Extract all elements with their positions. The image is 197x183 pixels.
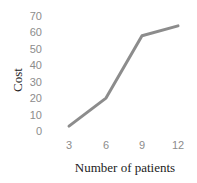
x-tick-label: 9 (139, 139, 145, 151)
x-tick-label: 6 (103, 139, 109, 151)
y-tick-label: 60 (30, 26, 42, 38)
y-tick-label: 20 (30, 92, 42, 104)
y-tick-label: 40 (30, 59, 42, 71)
cost-line (69, 26, 178, 126)
x-tick-label: 3 (66, 139, 72, 151)
y-tick-label: 30 (30, 76, 42, 88)
y-tick-label: 50 (30, 43, 42, 55)
y-tick-label: 0 (36, 125, 42, 137)
y-tick-label: 70 (30, 10, 42, 22)
y-tick-label: 10 (30, 109, 42, 121)
x-axis-label: Number of patients (75, 160, 175, 175)
x-axis-ticks: 36912 (66, 139, 184, 151)
line-chart: 010203040506070 36912 Cost Number of pat… (0, 0, 197, 183)
y-axis-ticks: 010203040506070 (30, 10, 42, 137)
y-axis-label: Cost (10, 68, 25, 92)
x-tick-label: 12 (172, 139, 184, 151)
